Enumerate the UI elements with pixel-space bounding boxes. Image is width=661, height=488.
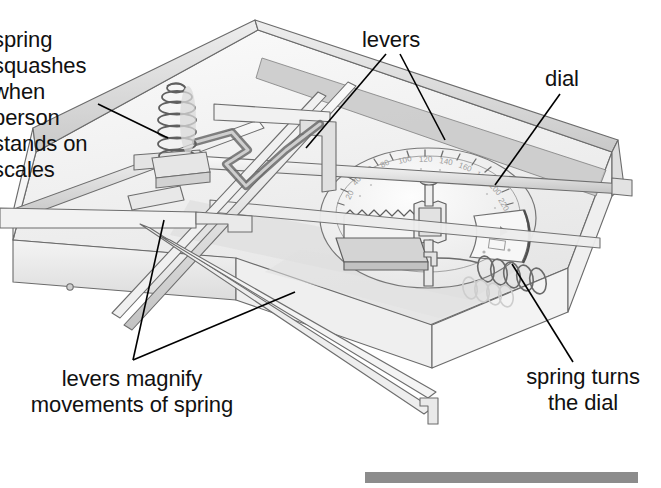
- pinion-shaft: [425, 182, 433, 206]
- diagram-canvas: 20 40 60 80 100 120 140 160 180 200 220 …: [0, 0, 661, 488]
- label-levers-magnify: levers magnify movements of spring: [22, 366, 242, 418]
- label-spring-squashes: spring squashes when person stands on sc…: [0, 27, 88, 183]
- screw-dot: [67, 284, 73, 290]
- mount-plate-edge: [344, 262, 428, 270]
- mount-plate: [336, 238, 428, 262]
- lever-long-right-end: [612, 178, 632, 196]
- svg-text:120: 120: [419, 155, 433, 164]
- grey-bar: [365, 472, 638, 483]
- coil-spring-vertical-shading: [180, 86, 196, 154]
- base-pan: [13, 20, 624, 368]
- label-levers: levers: [362, 27, 420, 53]
- label-dial: dial: [545, 66, 579, 92]
- spring-mount: [152, 152, 210, 188]
- label-spring-turns: spring turns the dial: [513, 364, 653, 416]
- lever-left-flat: [0, 208, 196, 228]
